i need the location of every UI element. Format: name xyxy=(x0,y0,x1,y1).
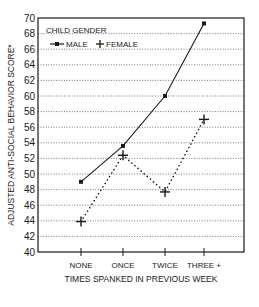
line-chart: 40424446485052545658606264666870 NONEONC… xyxy=(0,0,259,307)
male-marker xyxy=(79,180,83,184)
y-tick-label: 58 xyxy=(24,106,36,117)
female-marker xyxy=(76,217,86,227)
legend-female-icon xyxy=(96,40,104,48)
male-marker xyxy=(121,144,125,148)
legend-title: CHILD GENDER xyxy=(46,26,107,35)
y-tick-label: 48 xyxy=(24,184,36,195)
female-line xyxy=(81,119,204,221)
legend-male-label: MALE xyxy=(66,40,88,49)
male-marker xyxy=(202,21,206,25)
legend: CHILD GENDER MALE FEMALE xyxy=(46,26,138,49)
y-tick-label: 64 xyxy=(24,59,36,70)
x-tick-label: TWICE xyxy=(152,261,178,270)
female-marker xyxy=(199,114,209,124)
male-marker xyxy=(163,94,167,98)
x-tick-label: ONCE xyxy=(111,261,134,270)
x-tick-label: NONE xyxy=(69,261,92,270)
y-tick-label: 50 xyxy=(24,169,36,180)
plot-frame xyxy=(38,18,244,252)
y-tick-label: 52 xyxy=(24,153,36,164)
y-axis-ticks: 40424446485052545658606264666870 xyxy=(24,13,36,258)
y-tick-label: 56 xyxy=(24,122,36,133)
y-tick-label: 70 xyxy=(24,13,36,24)
data-series xyxy=(76,21,209,226)
x-axis-title: TIMES SPANKED IN PREVIOUS WEEK xyxy=(65,274,218,284)
gridlines xyxy=(38,34,244,237)
y-tick-label: 40 xyxy=(24,247,36,258)
y-tick-label: 42 xyxy=(24,231,36,242)
female-marker xyxy=(160,187,170,197)
y-tick-label: 62 xyxy=(24,75,36,86)
y-tick-label: 54 xyxy=(24,137,36,148)
y-axis-title: ADJUSTED ANTI-SOCIAL BEHAVIOR SCORE* xyxy=(6,44,16,226)
legend-female-label: FEMALE xyxy=(106,40,138,49)
x-axis-ticks: NONEONCETWICETHREE + xyxy=(69,248,221,270)
legend-male-icon xyxy=(50,42,64,46)
x-tick-label: THREE + xyxy=(187,261,221,270)
y-tick-label: 46 xyxy=(24,200,36,211)
y-tick-label: 66 xyxy=(24,44,36,55)
y-tick-label: 60 xyxy=(24,91,36,102)
y-tick-label: 68 xyxy=(24,28,36,39)
y-tick-label: 44 xyxy=(24,215,36,226)
